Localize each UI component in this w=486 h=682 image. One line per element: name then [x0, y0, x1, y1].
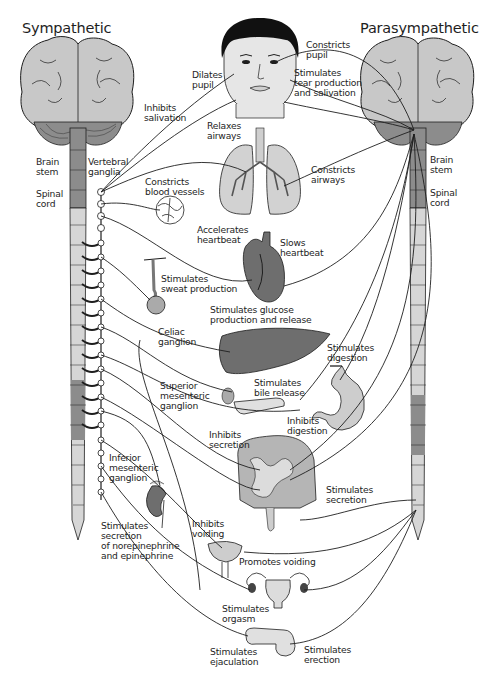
- vertebral-ganglia-chain: [98, 189, 105, 501]
- dilates-pupil-label: Dilates pupil: [192, 70, 222, 90]
- vertebral-ganglia-label: Vertebral ganglia: [88, 157, 128, 177]
- autonomic-diagram-canvas: [0, 0, 486, 682]
- stimulates-sweat-label: Stimulates sweat production: [161, 274, 237, 294]
- inhibits-salivation-label: Inhibits salivation: [144, 103, 186, 123]
- stimulates-adrenal-secretion-label: Stimulates secretion of norepinephrine a…: [101, 521, 179, 561]
- parasympathetic-title: Parasympathetic: [360, 20, 479, 36]
- stimulates-digestion-label: Stimulates digestion: [327, 343, 374, 363]
- constricts-blood-vessels-label: Constricts blood vessels: [145, 177, 204, 197]
- bladder-illustration: [208, 541, 242, 578]
- left-spinal-cord: [70, 128, 102, 540]
- left-brain-stem-label: Brain stem: [36, 157, 59, 177]
- right-spinal-cord: [410, 128, 426, 540]
- inferior-mesenteric-ganglion-label: Inferior mesenteric ganglion: [109, 453, 159, 483]
- left-spinal-cord-label: Spinal cord: [36, 189, 63, 209]
- constricts-airways-label: Constricts airways: [311, 165, 355, 185]
- stimulates-secretion-label: Stimulates secretion: [326, 485, 373, 505]
- inhibits-secretion-label: Inhibits secretion: [209, 430, 250, 450]
- stimulates-tears-label: Stimulates tear production and salivatio…: [294, 68, 362, 98]
- promotes-voiding-label: Promotes voiding: [239, 557, 316, 567]
- constricts-pupil-label: Constricts pupil: [306, 40, 350, 60]
- inhibits-voiding-label: Inhibits voiding: [192, 519, 224, 539]
- right-brain-stem-label: Brain stem: [430, 155, 453, 175]
- accelerates-heartbeat-label: Accelerates heartbeat: [197, 225, 248, 245]
- stimulates-orgasm-label: Stimulates orgasm: [222, 604, 269, 624]
- celiac-ganglion-label: Celiac ganglion: [158, 327, 196, 347]
- slows-heartbeat-label: Slows heartbeat: [280, 238, 323, 258]
- heart-illustration: [243, 232, 284, 302]
- blood-vessels-illustration: [156, 196, 184, 224]
- right-spinal-cord-label: Spinal cord: [430, 188, 457, 208]
- relaxes-airways-label: Relaxes airways: [207, 121, 241, 141]
- superior-mesenteric-ganglion-label: Superior mesenteric ganglion: [160, 381, 210, 411]
- stimulates-glucose-label: Stimulates glucose production and releas…: [210, 305, 312, 325]
- stimulates-bile-label: Stimulates bile release: [254, 378, 305, 398]
- stimulates-erection-label: Stimulates erection: [304, 645, 351, 665]
- liver-illustration: [219, 328, 330, 373]
- sympathetic-title: Sympathetic: [22, 20, 111, 36]
- stimulates-ejaculation-label: Stimulates ejaculation: [210, 647, 258, 667]
- inhibits-digestion-label: Inhibits digestion: [287, 416, 327, 436]
